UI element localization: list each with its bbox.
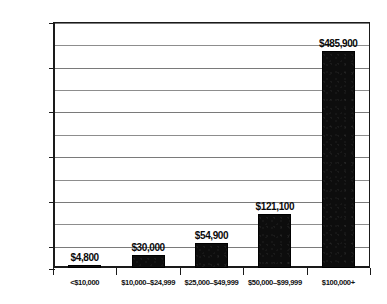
bar-slot: $54,900 bbox=[195, 22, 228, 268]
x-axis-label: $10,000–$24,999 bbox=[121, 278, 175, 287]
bar-value-label: $4,800 bbox=[71, 252, 99, 263]
bar-value-label: $121,100 bbox=[256, 201, 295, 212]
x-axis-tick bbox=[53, 268, 54, 275]
x-axis-tick bbox=[180, 268, 181, 275]
bar[interactable] bbox=[195, 243, 228, 268]
bar[interactable] bbox=[132, 255, 165, 268]
bar[interactable] bbox=[322, 51, 355, 268]
bar-slot: $30,000 bbox=[132, 22, 165, 268]
x-axis-label: $25,000–$49,999 bbox=[185, 278, 239, 287]
bar-value-label: $54,900 bbox=[195, 230, 228, 241]
bar[interactable] bbox=[258, 214, 291, 268]
y-axis-tick bbox=[49, 269, 55, 270]
x-axis-label: <$10,000 bbox=[70, 278, 99, 287]
x-axis-labels: <$10,000$10,000–$24,999$25,000–$49,999$5… bbox=[53, 278, 370, 294]
x-axis-tick bbox=[370, 268, 371, 275]
x-axis-tick bbox=[243, 268, 244, 275]
bar-chart: $0$50,000$150,000$250,000$350,000$450,00… bbox=[0, 0, 387, 304]
x-axis-tick bbox=[116, 268, 117, 275]
bar-slot: $485,900 bbox=[322, 22, 355, 268]
bar-value-label: $30,000 bbox=[131, 242, 164, 253]
bar-slot: $4,800 bbox=[68, 22, 101, 268]
x-axis-tick bbox=[307, 268, 308, 275]
bar-value-label: $485,900 bbox=[319, 38, 358, 49]
bar-slot: $121,100 bbox=[258, 22, 291, 268]
x-axis-label: $100,000+ bbox=[322, 278, 355, 287]
bar[interactable] bbox=[68, 265, 101, 268]
x-axis-label: $50,000–$99,999 bbox=[248, 278, 302, 287]
bar-series: $4,800$30,000$54,900$121,100$485,900 bbox=[53, 22, 370, 268]
